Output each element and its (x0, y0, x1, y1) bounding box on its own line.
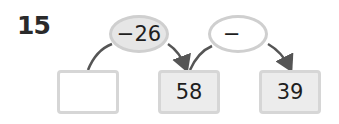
value-box-58: 58 (158, 70, 220, 114)
box-value: 58 (176, 80, 203, 104)
operation-oval-minus-blank[interactable]: − (208, 15, 268, 53)
operation-label: − (223, 22, 241, 46)
value-box-39: 39 (259, 70, 321, 114)
operation-label: −26 (117, 22, 161, 46)
box-value: 39 (277, 80, 304, 104)
operation-oval-minus-26: −26 (109, 15, 169, 53)
answer-box-start[interactable] (57, 70, 119, 114)
